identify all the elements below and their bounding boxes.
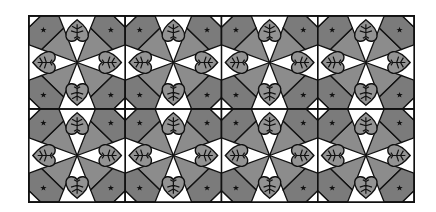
tile — [125, 16, 221, 109]
heart-leaf-icon — [162, 20, 184, 42]
heart-leaf-icon — [225, 52, 247, 74]
tile — [29, 109, 125, 202]
heart-leaf-icon — [162, 177, 184, 199]
heart-leaf-icon — [292, 145, 314, 167]
heart-leaf-icon — [162, 113, 184, 135]
heart-leaf-icon — [355, 177, 377, 199]
heart-leaf-icon — [355, 20, 377, 42]
heart-leaf-icon — [258, 20, 280, 42]
tile — [29, 16, 125, 109]
heart-leaf-icon — [258, 84, 280, 106]
heart-leaf-icon — [33, 145, 55, 167]
heart-leaf-icon — [322, 52, 344, 74]
heart-leaf-icon — [195, 145, 217, 167]
tile — [222, 109, 318, 202]
heart-leaf-icon — [162, 84, 184, 106]
heart-leaf-icon — [129, 145, 151, 167]
heart-leaf-icon — [355, 84, 377, 106]
heart-leaf-icon — [99, 145, 121, 167]
heart-leaf-icon — [322, 145, 344, 167]
heart-leaf-icon — [66, 177, 88, 199]
tile — [222, 16, 318, 109]
heart-leaf-icon — [292, 52, 314, 74]
heart-leaf-icon — [388, 52, 410, 74]
heart-leaf-icon — [129, 52, 151, 74]
heart-leaf-icon — [99, 52, 121, 74]
tile-pattern-frame: Tessellated decorative tile pattern of g… — [28, 15, 415, 203]
heart-leaf-icon — [195, 52, 217, 74]
heart-leaf-icon — [66, 20, 88, 42]
heart-leaf-icon — [258, 113, 280, 135]
heart-leaf-icon — [258, 177, 280, 199]
tile — [318, 16, 414, 109]
heart-leaf-icon — [33, 52, 55, 74]
heart-leaf-icon — [66, 113, 88, 135]
heart-leaf-icon — [388, 145, 410, 167]
heart-leaf-icon — [66, 84, 88, 106]
heart-leaf-icon — [355, 113, 377, 135]
tile — [125, 109, 221, 202]
tile — [318, 109, 414, 202]
heart-leaf-icon — [225, 145, 247, 167]
tile-pattern — [29, 16, 414, 202]
